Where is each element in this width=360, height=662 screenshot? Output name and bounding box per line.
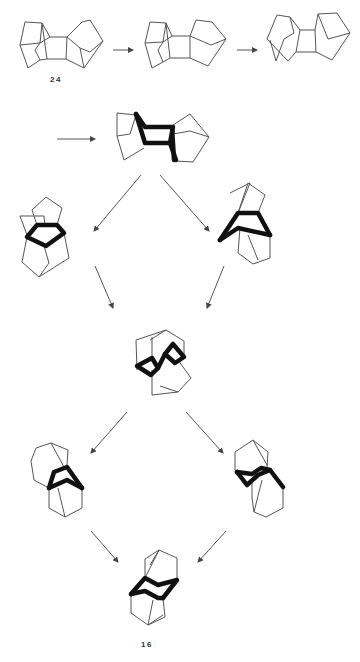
reaction-scheme: 24 <box>0 0 360 662</box>
structure-intermediate-5-right <box>235 440 283 517</box>
arrow-down-left-3 <box>91 412 127 453</box>
compound-label-16: 16 <box>141 640 153 649</box>
arrow-down-right-1 <box>160 175 209 231</box>
arrow-down-right-4 <box>91 531 118 562</box>
structure-intermediate-1b <box>267 13 350 61</box>
arrow-down-right-3 <box>186 412 223 453</box>
arrow-down-left-1 <box>94 175 141 231</box>
structure-intermediate-4-center <box>136 330 191 395</box>
structure-intermediate-3-left <box>20 197 69 277</box>
structure-intermediate-3-right <box>220 183 270 264</box>
structure-intermediate-2 <box>117 113 209 162</box>
compound-label-24: 24 <box>50 75 62 84</box>
structure-compound-24 <box>20 20 103 68</box>
structure-intermediate-1a <box>145 20 226 68</box>
structure-intermediate-5-left <box>31 443 82 517</box>
structure-compound-16 <box>131 550 177 625</box>
arrow-down-left-4 <box>198 531 226 562</box>
arrow-down-left-2 <box>207 266 224 308</box>
arrow-down-right-2 <box>95 266 113 308</box>
